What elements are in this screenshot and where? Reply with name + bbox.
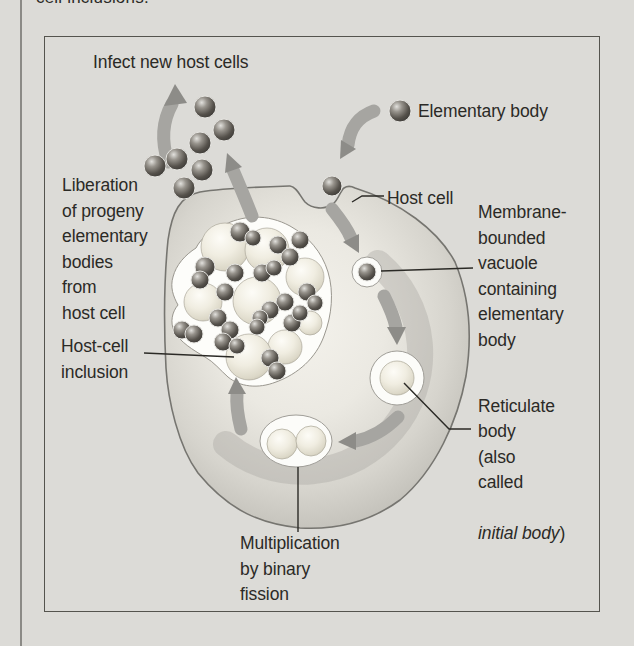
label-membrane-vacuole: Membrane- bounded vacuole containing ele… xyxy=(478,200,567,353)
elementary-body-in-vacuole-icon xyxy=(358,263,376,281)
arrow-entry xyxy=(348,111,374,145)
vacuole-stage xyxy=(352,257,382,287)
label-reticulate-body: Reticulate body (also called initial bod… xyxy=(478,368,565,572)
binary-fission-stage xyxy=(260,415,332,467)
label-reticulate-body-main: Reticulate body (also called xyxy=(478,394,565,496)
elementary-body-legend-icon xyxy=(389,100,411,122)
label-infect-new-host-cells: Infect new host cells xyxy=(93,50,248,76)
label-reticulate-body-alias: initial body) xyxy=(478,521,565,547)
reticulate-body-stage xyxy=(370,351,424,405)
label-multiplication: Multiplication by binary fission xyxy=(240,531,340,608)
label-host-cell: Host cell xyxy=(387,186,453,212)
label-liberation: Liberation of progeny elementary bodies … xyxy=(62,173,148,326)
elementary-body-at-pit-icon xyxy=(322,176,342,196)
label-elementary-body: Elementary body xyxy=(418,99,548,125)
free-elementary-bodies xyxy=(144,96,235,199)
textbook-page: cell inclusions. xyxy=(0,0,634,646)
arrow-fission-to-inclusion xyxy=(237,394,241,429)
reticulate-body-icon xyxy=(380,361,414,395)
label-host-cell-inclusion: Host-cell inclusion xyxy=(61,334,128,385)
